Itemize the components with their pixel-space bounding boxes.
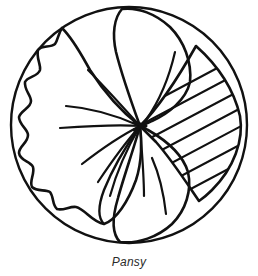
vein-left-down2 (98, 126, 140, 182)
vein-left-down3 (110, 126, 140, 196)
vein-left-mid (60, 125, 140, 128)
figure-caption: Pansy (0, 255, 258, 269)
pansy-line-drawing-svg (0, 0, 258, 250)
vein-left-up2 (88, 70, 140, 126)
illustration-page: Pansy (0, 0, 258, 276)
vein-lower-right (152, 158, 166, 214)
pansy-figure (0, 0, 258, 250)
